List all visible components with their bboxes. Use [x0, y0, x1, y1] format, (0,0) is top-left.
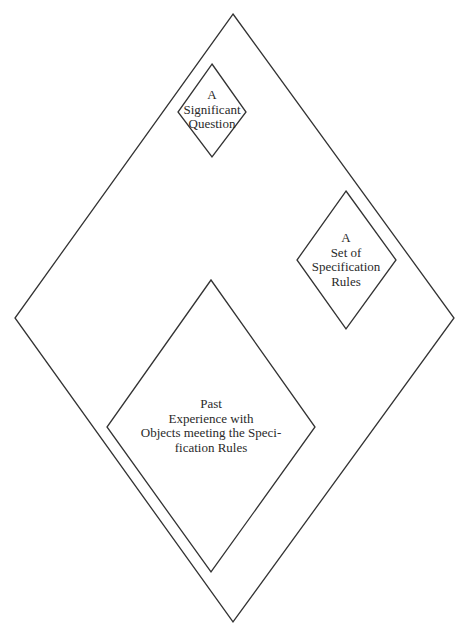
experience-line-2: Experience with: [111, 412, 311, 427]
rules-line-3: Specification: [296, 260, 396, 275]
experience-line-1: Past: [111, 397, 311, 412]
rules-line-4: Rules: [296, 275, 396, 290]
significant-question-label: A Significant Question: [162, 88, 262, 132]
rules-line-2: Set of: [296, 246, 396, 261]
question-line-2: Significant: [162, 103, 262, 118]
specification-rules-label: A Set of Specification Rules: [296, 231, 396, 289]
rules-line-1: A: [296, 231, 396, 246]
past-experience-label: Past Experience with Objects meeting the…: [111, 397, 311, 455]
experience-line-3: Objects meeting the Speci-: [111, 426, 311, 441]
question-line-3: Question: [162, 117, 262, 132]
experience-line-4: fication Rules: [111, 441, 311, 456]
question-line-1: A: [162, 88, 262, 103]
